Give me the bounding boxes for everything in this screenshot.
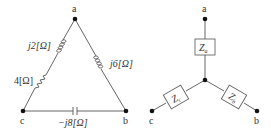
wye-neutral-node	[203, 78, 208, 83]
delta-node-c	[21, 109, 26, 114]
wye-label-a: a	[202, 3, 207, 14]
wire-wye-c-outer	[152, 103, 166, 111]
delta-node-b	[124, 109, 129, 114]
wye-network: a c b Za Zc Zb	[149, 3, 259, 126]
wire-wye-c-inner	[186, 80, 205, 91]
resistor-4-zigzag-icon	[35, 75, 46, 88]
wye-node-b	[255, 109, 260, 114]
delta-node-a	[73, 17, 78, 22]
label-4-ohm: 4[Ω]	[14, 75, 33, 86]
wire-a-to-inductor-j6	[75, 19, 96, 56]
label-j6-ohm: j6[Ω]	[108, 58, 133, 69]
wye-label-b: b	[254, 115, 259, 126]
label-j2-ohm: j2[Ω]	[26, 40, 51, 51]
inductor-j6-coil-icon	[94, 56, 103, 68]
delta-label-c: c	[20, 115, 25, 126]
label-neg-j8-ohm: −j8[Ω]	[58, 117, 88, 128]
wire-a-to-inductor-j2	[63, 19, 75, 40]
delta-network: a c b j2[Ω] 4[Ω] j6[Ω] −j8[Ω]	[14, 3, 133, 128]
delta-label-a: a	[72, 3, 77, 14]
wye-label-c: c	[149, 115, 154, 126]
delta-label-b: b	[123, 115, 128, 126]
wye-node-c	[150, 109, 155, 114]
wire-j2-to-resistor	[46, 53, 58, 75]
wire-resistor-to-c	[23, 88, 35, 111]
wire-j6-to-b	[101, 69, 126, 111]
inductor-j2-coil-icon	[57, 40, 66, 52]
wye-node-a	[203, 17, 208, 22]
capacitor-icon	[73, 107, 77, 115]
circuit-diagram: a c b j2[Ω] 4[Ω] j6[Ω] −j8[Ω] a c b	[0, 0, 271, 137]
wire-wye-b-inner	[205, 80, 224, 91]
